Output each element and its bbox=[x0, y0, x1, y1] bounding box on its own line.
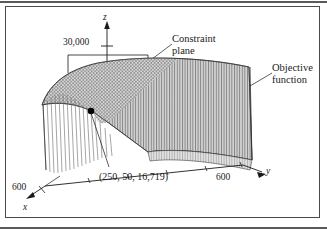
objective-function-label-line2: function bbox=[272, 74, 307, 86]
figure-container: 30,000 z Constraint plane Objective func… bbox=[0, 0, 327, 234]
objective-function-leader bbox=[250, 73, 272, 86]
constraint-plane-label-line1: Constraint bbox=[172, 33, 216, 45]
y-axis-arrowhead bbox=[257, 172, 266, 178]
constraint-plane-label-line2: plane bbox=[172, 45, 195, 57]
x-axis-label: x bbox=[23, 202, 27, 212]
objective-surface-group bbox=[42, 58, 252, 173]
surface-left-edge bbox=[43, 104, 46, 170]
z-axis-tick-label: 30,000 bbox=[63, 37, 89, 47]
objective-function-leader-group bbox=[250, 73, 272, 86]
y-axis-tick-label: 600 bbox=[216, 172, 230, 182]
z-axis-label: z bbox=[103, 12, 107, 22]
surface-plot-graphic bbox=[0, 0, 327, 234]
x-axis-tick-label: 600 bbox=[12, 182, 26, 192]
objective-function-label-line1: Objective bbox=[272, 62, 313, 74]
y-axis-label: y bbox=[266, 166, 270, 176]
optimum-point-label: (250, 50, 16,719) bbox=[99, 171, 168, 182]
